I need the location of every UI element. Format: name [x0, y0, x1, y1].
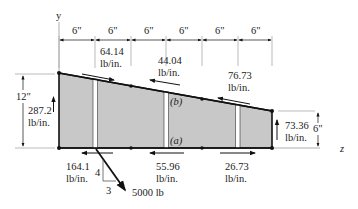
svg-text:lb/in.: lb/in.: [228, 82, 250, 93]
svg-text:6": 6": [215, 25, 225, 36]
left-height-label: 12": [16, 91, 31, 102]
svg-text:lb/in.: lb/in.: [285, 132, 307, 143]
slope-run-label: 3: [106, 185, 111, 196]
svg-text:164.1: 164.1: [66, 161, 90, 172]
bottom-3-shear-label: 26.73 lb/in.: [225, 161, 249, 184]
svg-text:lb/in.: lb/in.: [225, 173, 247, 184]
svg-text:64.14: 64.14: [100, 46, 124, 57]
slope-rise-label: 4: [95, 167, 101, 178]
svg-text:6": 6": [179, 25, 189, 36]
panel-label-a: (a): [170, 135, 183, 147]
top-dimension-labels: 6" 6" 6" 6" 6" 6": [72, 25, 261, 36]
svg-text:6": 6": [72, 25, 82, 36]
load-arrow: [96, 149, 125, 190]
svg-text:55.96: 55.96: [156, 161, 180, 172]
svg-text:6": 6": [251, 25, 261, 36]
svg-text:44.04: 44.04: [158, 55, 182, 66]
load-label: 5000 lb: [132, 187, 164, 198]
bottom-2-shear-label: 55.96 lb/in.: [156, 161, 180, 184]
svg-text:lb/in.: lb/in.: [66, 173, 88, 184]
bottom-1-shear-label: 164.1 lb/in.: [66, 161, 90, 184]
z-axis-label: z: [339, 143, 344, 154]
panel-label-b: (b): [170, 96, 183, 108]
top-3-shear-label: 76.73 lb/in.: [228, 70, 252, 93]
top-1-shear-label: 64.14 lb/in.: [100, 46, 124, 69]
svg-text:26.73: 26.73: [225, 161, 249, 172]
right-height-label: 6": [313, 123, 323, 134]
svg-text:6": 6": [108, 25, 118, 36]
right-web-shear-label: 73.36 lb/in.: [285, 120, 309, 143]
left-web-shear-label: 287.2 lb/in.: [28, 105, 52, 128]
svg-text:6": 6": [144, 25, 154, 36]
svg-text:76.73: 76.73: [228, 70, 252, 81]
top-2-shear-label: 44.04 lb/in.: [158, 55, 182, 78]
svg-text:287.2: 287.2: [28, 105, 52, 116]
tapered-beam-diagram: y z 6" 6" 6" 6" 6" 6" 12" 6": [0, 0, 358, 209]
svg-text:lb/in.: lb/in.: [156, 173, 178, 184]
svg-text:lb/in.: lb/in.: [100, 58, 122, 69]
svg-text:73.36: 73.36: [285, 120, 309, 131]
y-axis-label: y: [56, 10, 62, 21]
svg-text:lb/in.: lb/in.: [158, 67, 180, 78]
svg-text:lb/in.: lb/in.: [28, 117, 50, 128]
